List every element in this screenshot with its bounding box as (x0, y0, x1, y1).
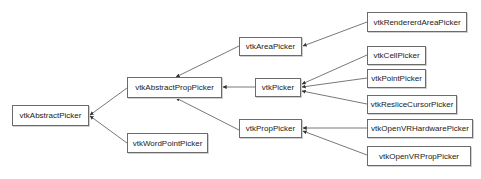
node-vtkPropPicker[interactable]: vtkPropPicker (239, 119, 302, 138)
node-vtkAreaPicker[interactable]: vtkAreaPicker (239, 37, 302, 56)
node-vtkResliceCursorPicker[interactable]: vtkResliceCursorPicker (367, 95, 457, 114)
edge-vtkWordPointPicker-to-vtkAbstractPicker (90, 116, 127, 143)
node-vtkOpenVRPropPicker[interactable]: vtkOpenVRPropPicker (367, 146, 471, 166)
inheritance-diagram: vtkAbstractPicker vtkAbstractPropPicker … (0, 0, 481, 179)
node-vtkAbstractPicker[interactable]: vtkAbstractPicker (12, 105, 89, 126)
edge-vtkPropPicker-to-vtkAbstractPropPicker (176, 98, 239, 130)
edge-vtkResliceCursorPicker-to-vtkPicker (302, 91, 367, 104)
node-vtkCellPicker[interactable]: vtkCellPicker (367, 46, 426, 65)
node-vtkPointPicker[interactable]: vtkPointPicker (367, 69, 426, 88)
edge-vtkOpenVRPropPicker-to-vtkPropPicker (303, 131, 367, 155)
node-vtkOpenVRHardwarePicker[interactable]: vtkOpenVRHardwarePicker (367, 119, 473, 138)
node-vtkAbstractPropPicker[interactable]: vtkAbstractPropPicker (127, 77, 222, 98)
edge-vtkAreaPicker-to-vtkAbstractPropPicker (176, 46, 239, 77)
edge-vtkAbstractPropPicker-to-vtkAbstractPicker (90, 88, 127, 115)
node-vtkRendererdAreaPicker[interactable]: vtkRendererdAreaPicker (367, 12, 467, 32)
node-vtkWordPointPicker[interactable]: vtkWordPointPicker (127, 133, 208, 153)
node-vtkPicker[interactable]: vtkPicker (255, 78, 301, 97)
edge-vtkRendererdAreaPicker-to-vtkAreaPicker (303, 22, 367, 46)
